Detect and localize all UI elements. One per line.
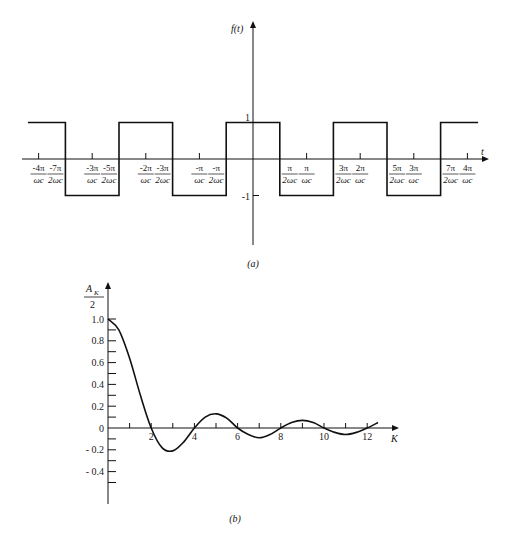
svg-text:A: A bbox=[85, 283, 93, 294]
figure-caption-b: (b) bbox=[229, 513, 241, 525]
x-tick-label: 6 bbox=[235, 431, 240, 442]
y-tick-label: 0.8 bbox=[92, 335, 105, 346]
y-axis bbox=[105, 282, 111, 504]
x-tick-label: 12 bbox=[362, 431, 372, 442]
y-tick-label: - 0.4 bbox=[86, 466, 104, 477]
fourier-coefficients-chart: K A K 2 1.00.80.60.40.20- 0.2- 0.4 24681… bbox=[0, 0, 505, 540]
y-axis-label: A K 2 bbox=[84, 283, 104, 310]
y-tick-label: 0.6 bbox=[92, 357, 105, 368]
x-axis-label: K bbox=[390, 433, 399, 444]
y-tick-label: 0 bbox=[99, 423, 104, 434]
svg-text:K: K bbox=[93, 289, 99, 297]
y-tick-label: - 0.2 bbox=[86, 444, 104, 455]
x-tick-label: 10 bbox=[319, 431, 329, 442]
y-tick-label: 0.2 bbox=[92, 401, 105, 412]
x-tick-label: 8 bbox=[278, 431, 283, 442]
svg-text:2: 2 bbox=[90, 299, 95, 310]
y-ticks: 1.00.80.60.40.20- 0.2- 0.4 bbox=[86, 314, 116, 483]
y-tick-label: 0.4 bbox=[92, 379, 105, 390]
x-tick-label: 4 bbox=[192, 431, 197, 442]
y-tick-label: 1.0 bbox=[92, 314, 105, 325]
